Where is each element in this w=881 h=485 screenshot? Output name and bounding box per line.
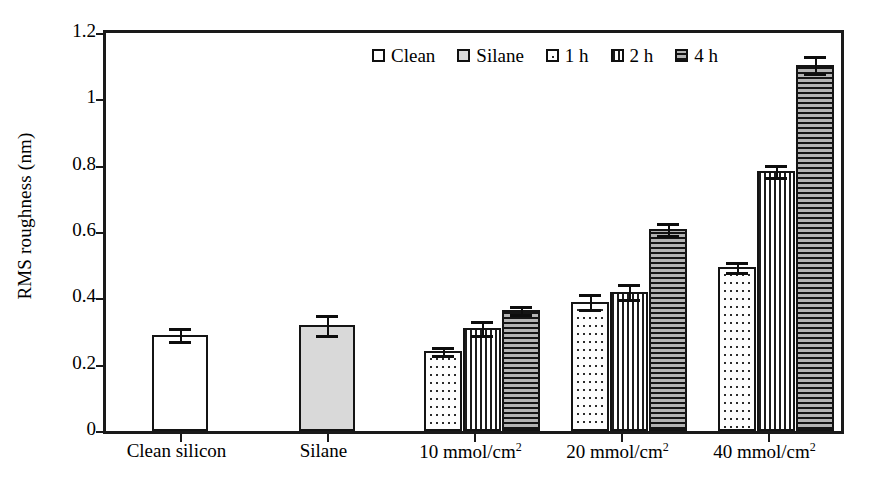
bar-silane-group2 [299, 325, 355, 431]
chart-legend: CleanSilane1 h2 h4 h [372, 42, 718, 68]
legend-item-4h: 4 h [675, 46, 718, 65]
bar-clean-group1 [152, 335, 208, 431]
x-axis-label-2: Silane [300, 440, 348, 462]
x-axis-label-text: 20 mmol/cm [566, 441, 663, 462]
error-bar-cap-upper [726, 262, 748, 265]
error-bar-cap-upper [804, 56, 826, 59]
plot-area [103, 30, 844, 434]
error-bar-cap-lower [471, 335, 493, 338]
y-axis-tick-label: 0.2 [50, 352, 96, 371]
y-axis-tick [96, 431, 106, 433]
y-axis-tick-label: 1.2 [50, 21, 96, 40]
legend-label: Clean [391, 46, 435, 65]
error-bar-cap-lower [510, 314, 532, 317]
legend-label: 1 h [565, 46, 589, 65]
legend-item-2h: 2 h [611, 46, 654, 65]
y-axis-tick [96, 298, 106, 300]
y-axis-tick-labels: 00.20.40.60.811.2 [44, 0, 96, 485]
x-axis-label-1: Clean silicon [127, 440, 227, 462]
x-axis-label-5: 40 mmol/cm2 [713, 440, 816, 463]
y-axis-tick [96, 166, 106, 168]
error-bar-cap-upper [657, 223, 679, 226]
error-bar-cap-lower [804, 73, 826, 76]
bar-4h-group5 [796, 65, 834, 431]
swatch-gray-icon [457, 49, 470, 62]
y-axis-tick-label: 0.4 [50, 286, 96, 305]
y-axis-tick-label: 1 [50, 87, 96, 106]
y-axis-tick-label: 0 [50, 419, 96, 438]
y-axis-tick [96, 232, 106, 234]
x-axis-label-superscript: 2 [810, 440, 816, 454]
bar-chart-figure: RMS roughness (nm) 00.20.40.60.811.2 Cle… [0, 0, 881, 485]
y-axis-tick-label: 0.8 [50, 153, 96, 172]
legend-label: Silane [476, 46, 524, 65]
error-bar-cap-lower [169, 341, 191, 344]
error-bar-cap-upper [510, 306, 532, 309]
x-axis-category-labels: Clean siliconSilane10 mmol/cm220 mmol/cm… [103, 440, 838, 480]
error-bar-cap-upper [169, 328, 191, 331]
bar-2h-group4 [610, 292, 648, 431]
bar-1h-group4 [571, 302, 609, 431]
error-bar-cap-lower [579, 309, 601, 312]
y-axis-tick [96, 99, 106, 101]
error-bar-cap-lower [432, 355, 454, 358]
x-axis-label-superscript: 2 [516, 440, 522, 454]
x-axis-label-superscript: 2 [663, 440, 669, 454]
x-axis-label-text: Clean silicon [127, 440, 227, 461]
swatch-vertical-icon [611, 49, 624, 62]
error-bar-cap-upper [471, 321, 493, 324]
x-axis-label-text: 10 mmol/cm [419, 441, 516, 462]
y-axis-tick [96, 365, 106, 367]
legend-item-1h: 1 h [546, 46, 589, 65]
error-bar-cap-lower [765, 177, 787, 180]
legend-label: 2 h [630, 46, 654, 65]
x-axis-label-text: 40 mmol/cm [713, 441, 810, 462]
error-bar-cap-upper [432, 347, 454, 350]
error-bar-cap-upper [316, 315, 338, 318]
error-bar-cap-lower [657, 235, 679, 238]
error-bar-cap-upper [618, 284, 640, 287]
legend-item-clean: Clean [372, 46, 435, 65]
bar-2h-group5 [757, 171, 795, 431]
bar-4h-group4 [649, 229, 687, 431]
plot-inner [106, 33, 841, 431]
x-axis-label-text: Silane [300, 440, 348, 461]
x-axis-label-4: 20 mmol/cm2 [566, 440, 669, 463]
swatch-horizontal-icon [675, 49, 688, 62]
y-axis-label-container: RMS roughness (nm) [0, 0, 40, 440]
legend-item-silane: Silane [457, 46, 524, 65]
error-bar-cap-lower [316, 335, 338, 338]
y-axis-tick [96, 33, 106, 35]
swatch-dotted-icon [546, 49, 559, 62]
legend-label: 4 h [694, 46, 718, 65]
bar-4h-group3 [502, 310, 540, 431]
bar-1h-group5 [718, 267, 756, 431]
bar-2h-group3 [463, 328, 501, 431]
error-bar-cap-upper [765, 165, 787, 168]
x-axis-label-3: 10 mmol/cm2 [419, 440, 522, 463]
error-bar-cap-lower [618, 299, 640, 302]
error-bar-cap-lower [726, 272, 748, 275]
y-axis-tick-label: 0.6 [50, 220, 96, 239]
swatch-empty-icon [372, 49, 385, 62]
error-bar-cap-upper [579, 294, 601, 297]
bar-1h-group3 [424, 351, 462, 431]
y-axis-label: RMS roughness (nm) [14, 46, 36, 386]
